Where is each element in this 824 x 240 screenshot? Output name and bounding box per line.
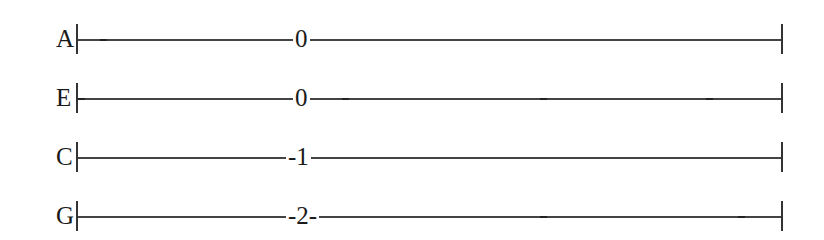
end-barline [781,201,783,231]
fret-number: -2- [286,196,319,236]
string-line [78,157,781,159]
string-row-c: C -1 [0,137,824,177]
string-row-g: G -2- [0,196,824,236]
string-label: E [56,78,71,118]
fret-number: 0 [293,78,310,118]
end-barline [781,142,783,172]
string-line [78,39,781,41]
string-label: G [56,196,74,236]
tab-dash [706,98,713,101]
end-barline [781,24,783,54]
string-label: C [56,137,73,177]
tab-dash [342,98,349,101]
tab-dash [100,39,107,42]
tab-dash [738,216,745,219]
end-barline [781,83,783,113]
string-row-a: A 0 [0,19,824,59]
string-row-e: E 0 [0,78,824,118]
string-label: A [56,19,74,59]
tab-dash [540,216,547,219]
fret-number: 0 [293,19,310,59]
fret-number: -1 [286,137,311,177]
string-line [78,216,781,218]
tab-dash [540,98,547,101]
string-line [78,98,781,100]
tab-dash [78,98,85,101]
